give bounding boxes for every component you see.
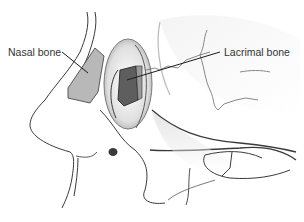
nasal-bone <box>68 48 104 103</box>
cranium <box>158 15 300 112</box>
skull-illustration <box>0 0 304 222</box>
lacrimal-bone <box>118 66 138 106</box>
nose-profile <box>30 12 97 208</box>
lacrimal-bone-label: Lacrimal bone <box>224 47 290 58</box>
infraorbital-foramen <box>109 148 118 156</box>
nasal-bone-leader-line <box>62 52 88 73</box>
skull-drawing <box>0 0 304 222</box>
nasal-bone-label: Nasal bone <box>8 47 61 58</box>
